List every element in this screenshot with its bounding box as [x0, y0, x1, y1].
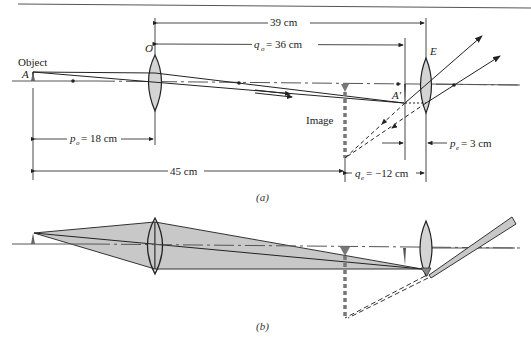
focal-point-icon [396, 82, 400, 86]
intermediate-image-arrow-icon [403, 248, 406, 265]
dimension-lens-separation: 39 cm [157, 15, 424, 29]
panel-a-caption: (a) [256, 191, 269, 204]
dimension-object-to-image: 45 cm [35, 164, 343, 178]
svg-text:e: e [456, 144, 459, 152]
eyepiece-label: E [429, 45, 437, 57]
optical-axis-a [12, 81, 520, 85]
svg-text:p: p [449, 137, 456, 149]
point-a-label: A [21, 68, 29, 80]
virtual-rays [345, 276, 428, 318]
svg-text:45 cm: 45 cm [170, 165, 198, 177]
compound-microscope-diagram: Object A O E A′ Image [0, 0, 531, 343]
panel-b: (b) [12, 217, 520, 333]
dimension-p-e: p e = 3 cm [382, 137, 492, 152]
svg-text:= 36 cm: = 36 cm [266, 38, 303, 50]
panel-b-caption: (b) [256, 320, 269, 333]
point-a-prime-label: A′ [391, 89, 402, 101]
svg-text:= 3 cm: = 3 cm [461, 137, 492, 149]
svg-text:o: o [76, 139, 80, 147]
svg-text:39 cm: 39 cm [270, 16, 298, 28]
top-rule [18, 4, 531, 8]
eyepiece-lens [421, 58, 432, 113]
image-label: Image [306, 114, 334, 126]
focal-point-icon [71, 79, 75, 83]
svg-text:o: o [261, 45, 265, 53]
svg-text:p: p [69, 132, 76, 144]
panel-a: Object A O E A′ Image [12, 15, 520, 204]
object-label: Object [18, 56, 47, 68]
dimension-q-o: q o = 36 cm [157, 36, 403, 53]
dimension-p-o: p o = 18 cm [35, 131, 153, 147]
svg-text:= 18 cm: = 18 cm [81, 132, 118, 144]
objective-label: O [145, 42, 153, 54]
object-arrow-icon [31, 233, 35, 244]
svg-text:q: q [254, 38, 260, 50]
objective-rays [33, 72, 404, 103]
svg-text:= −12 cm: = −12 cm [366, 167, 409, 179]
object-light-cone [34, 222, 155, 269]
svg-text:e: e [361, 174, 364, 182]
dimension-q-e: q e = −12 cm [347, 165, 424, 182]
